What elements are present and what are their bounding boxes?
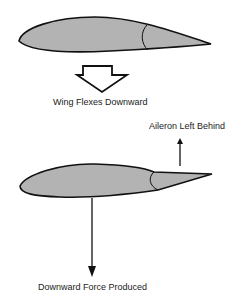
label-downward-force: Downward Force Produced bbox=[38, 282, 147, 292]
bottom-wing bbox=[20, 164, 212, 197]
diagram-canvas bbox=[0, 0, 240, 303]
label-aileron-left-behind: Aileron Left Behind bbox=[149, 121, 225, 131]
top-wing bbox=[19, 17, 211, 52]
down-arrow-icon bbox=[88, 198, 96, 277]
label-wing-flexes: Wing Flexes Downward bbox=[53, 97, 148, 107]
hollow-down-arrow-icon bbox=[77, 66, 127, 92]
up-arrow-icon bbox=[177, 138, 183, 166]
